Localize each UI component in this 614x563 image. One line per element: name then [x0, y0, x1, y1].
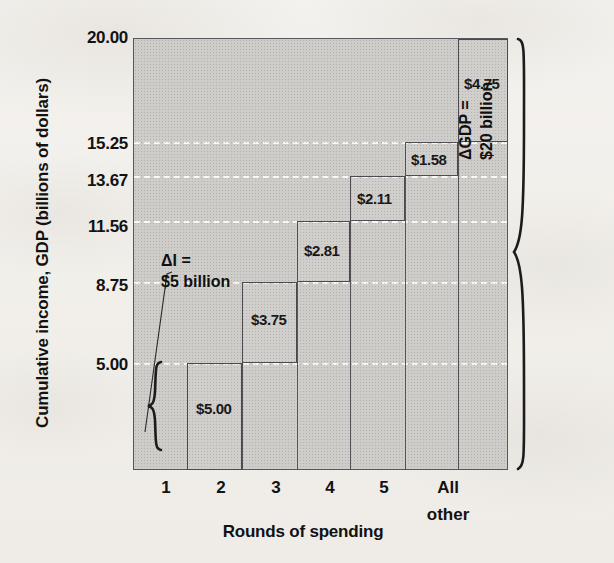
x-tick-4-label: 4 [325, 478, 334, 497]
delta-gdp-brace [514, 39, 524, 469]
delta-i-line-2: $5 billion [161, 271, 230, 292]
bar-value-round-3: $2.81 [304, 242, 340, 259]
delta-i-callout: ΔI = $5 billion [161, 250, 230, 293]
bar-round-2[interactable]: $3.75 [242, 282, 297, 363]
x-tick-2-label: 2 [216, 478, 225, 497]
col-divider-5 [405, 142, 406, 470]
x-tick-1: 1 [146, 478, 186, 498]
bar-round-3[interactable]: $2.81 [297, 221, 350, 282]
y-axis-title: Cumulative income, GDP (billions of doll… [33, 38, 53, 468]
bar-round-1[interactable]: $5.00 [187, 363, 242, 470]
bar-value-round-1: $5.00 [196, 400, 232, 417]
multiplier-staircase-chart: 20.00 15.25 13.67 11.56 8.75 5.00 Cumula… [0, 0, 614, 563]
x-tick-all-other-label-line2: other [418, 505, 478, 525]
delta-gdp-callout: ΔGDP = $20 billion [456, 0, 498, 160]
x-tick-1-label: 1 [161, 478, 170, 497]
gridline-13-67 [134, 176, 507, 180]
y-tick-15-25: 15.25 [87, 134, 128, 154]
delta-i-line-1: ΔI = [161, 250, 230, 271]
delta-gdp-line-2: $20 billion [477, 0, 498, 160]
x-tick-3-label: 3 [271, 478, 280, 497]
x-tick-all-other: All other [418, 478, 478, 525]
bar-value-round-2: $3.75 [251, 311, 287, 328]
y-tick-20-00: 20.00 [87, 28, 128, 48]
x-tick-2: 2 [201, 478, 241, 498]
delta-gdp-line-1: ΔGDP = [456, 0, 477, 160]
bar-value-round-4: $2.11 [357, 190, 392, 207]
y-tick-11-56: 11.56 [88, 217, 128, 237]
x-tick-all-other-label-line1: All [437, 478, 459, 497]
y-tick-13-67: 13.67 [87, 171, 128, 191]
y-tick-5-00: 5.00 [96, 355, 128, 375]
bar-round-4[interactable]: $2.11 [350, 176, 405, 221]
bar-round-5[interactable]: $1.58 [405, 142, 458, 176]
y-tick-8-75: 8.75 [96, 276, 128, 296]
x-tick-3: 3 [256, 478, 296, 498]
bar-value-round-5: $1.58 [411, 151, 447, 168]
x-axis-title: Rounds of spending [188, 522, 418, 542]
x-tick-4: 4 [310, 478, 350, 498]
x-tick-5-label: 5 [379, 478, 388, 497]
x-tick-5: 5 [364, 478, 404, 498]
y-axis-tick-labels: 20.00 15.25 13.67 11.56 8.75 5.00 [0, 0, 128, 563]
